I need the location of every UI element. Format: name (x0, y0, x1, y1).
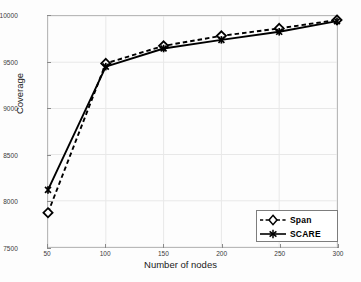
x-tick-label-150: 150 (158, 250, 169, 257)
x-tick-mark (222, 244, 223, 248)
y-tick-label-7500: 7500 (3, 245, 18, 252)
x-tick-label-50: 50 (43, 250, 50, 257)
data-point-span (43, 208, 52, 217)
y-tick-mark (47, 15, 51, 16)
y-tick-label-8000: 8000 (3, 198, 18, 205)
y-tick-mark (47, 248, 51, 249)
y-axis-title: Coverage (14, 34, 25, 154)
x-tick-mark (280, 244, 281, 248)
y-tick-label-10000: 10000 (0, 12, 18, 19)
figure-canvas: 1000095009000850080007500 50100150200250… (0, 0, 361, 282)
legend-marker-diamond-dashed-icon (260, 214, 286, 226)
data-point-scare (45, 186, 51, 194)
x-tick-label-300: 300 (333, 250, 344, 257)
legend-item-scare[interactable]: SCARE (257, 227, 337, 241)
x-tick-mark (47, 244, 48, 248)
y-tick-mark (47, 62, 51, 63)
y-tick-mark (47, 108, 51, 109)
x-tick-mark (105, 244, 106, 248)
chart-legend[interactable]: Span SCARE (256, 210, 338, 242)
x-tick-mark (338, 244, 339, 248)
x-tick-label-250: 250 (274, 250, 285, 257)
x-tick-mark (163, 244, 164, 248)
x-axis-title: Number of nodes (0, 259, 361, 270)
legend-item-span[interactable]: Span (257, 213, 337, 227)
y-tick-mark (47, 155, 51, 156)
y-tick-mark (47, 201, 51, 202)
x-tick-label-200: 200 (216, 250, 227, 257)
legend-label-span: Span (290, 215, 312, 225)
legend-marker-star-solid-icon (260, 228, 286, 240)
legend-label-scare: SCARE (290, 229, 321, 239)
x-tick-label-100: 100 (100, 250, 111, 257)
